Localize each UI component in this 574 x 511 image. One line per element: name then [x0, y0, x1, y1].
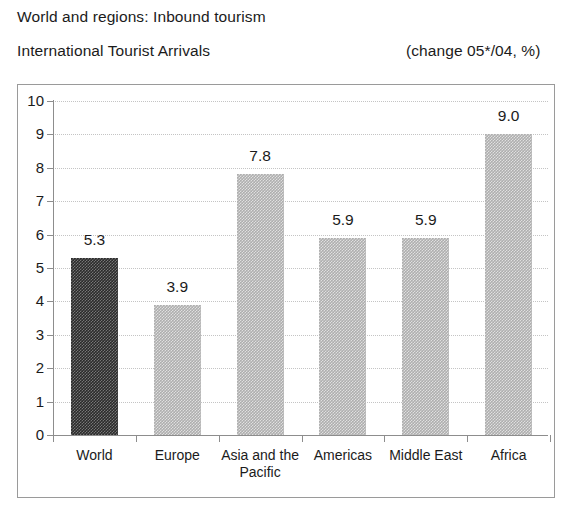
x-tick-1: [219, 435, 220, 442]
y-axis-label-8: 8: [4, 160, 44, 175]
bar-value-label-africa: 9.0: [474, 108, 544, 124]
bar-value-label-asia-and-the-pacific: 7.8: [225, 148, 295, 164]
bar-europe[interactable]: [154, 305, 201, 435]
x-tick-3: [384, 435, 385, 442]
axis-baseline: [53, 435, 548, 436]
x-tick-0: [136, 435, 137, 442]
x-tick-2: [302, 435, 303, 442]
bar-africa[interactable]: [485, 134, 532, 435]
y-axis-label-5: 5: [4, 260, 44, 275]
x-axis-label-africa: Africa: [457, 447, 561, 464]
y-axis-label-9: 9: [4, 126, 44, 141]
bar-americas[interactable]: [319, 238, 366, 435]
bar-value-label-middle-east: 5.9: [391, 212, 461, 228]
bar-chart: 109876543210 WorldEuropeAsia and the Pac…: [17, 84, 555, 498]
chart-subtitle: International Tourist Arrivals: [17, 42, 210, 60]
bar-value-label-europe: 3.9: [142, 279, 212, 295]
chart-header: World and regions: Inbound tourism Inter…: [0, 0, 574, 84]
x-tick-4: [467, 435, 468, 442]
y-axis-label-0: 0: [4, 427, 44, 442]
bar-middle-east[interactable]: [402, 238, 449, 435]
bar-value-label-americas: 5.9: [308, 212, 378, 228]
chart-units-note: (change 05*/04, %): [406, 42, 541, 60]
y-axis-label-7: 7: [4, 193, 44, 208]
bar-value-label-world: 5.3: [59, 232, 129, 248]
bar-world[interactable]: [71, 258, 118, 435]
page-title: World and regions: Inbound tourism: [17, 8, 266, 26]
x-tick-origin: [53, 435, 54, 442]
y-axis-label-1: 1: [4, 394, 44, 409]
y-axis-label-10: 10: [4, 93, 44, 108]
y-axis-label-6: 6: [4, 227, 44, 242]
bar-asia-and-the-pacific[interactable]: [237, 174, 284, 435]
y-axis-label-3: 3: [4, 327, 44, 342]
plot-area: [53, 101, 550, 435]
x-tick-5: [550, 435, 551, 442]
y-axis-label-2: 2: [4, 360, 44, 375]
y-axis-label-4: 4: [4, 293, 44, 308]
